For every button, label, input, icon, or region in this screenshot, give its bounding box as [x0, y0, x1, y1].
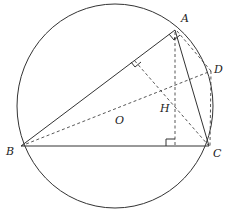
label-B: B [5, 145, 14, 158]
segment-AC [175, 30, 209, 146]
altitude-from-C [134, 60, 209, 146]
label-H: H [159, 102, 170, 115]
label-A: A [180, 12, 189, 25]
segment-AB [21, 30, 175, 146]
circumcircle [17, 4, 213, 208]
label-O: O [115, 114, 124, 127]
geometry-diagram: A B C D H O [0, 0, 228, 212]
label-C: C [213, 147, 222, 160]
segment-AD [177, 31, 211, 71]
label-D: D [213, 63, 223, 76]
right-angle-mark-foot-BC [166, 139, 175, 146]
segment-BD [21, 71, 211, 146]
